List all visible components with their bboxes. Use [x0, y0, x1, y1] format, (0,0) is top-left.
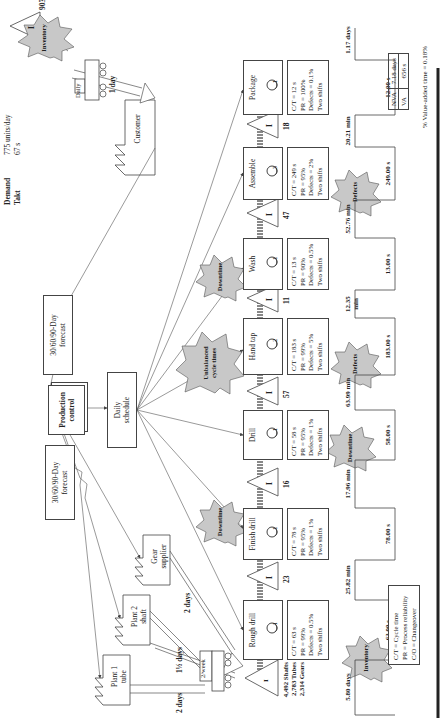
inventory-symbol: I: [265, 213, 274, 216]
customer-truck-frequency: Daily: [73, 84, 82, 98]
wait-time: 20.21 min: [344, 115, 352, 147]
wip-qty: 57: [282, 391, 291, 399]
nva-value: 7.18 days: [389, 54, 399, 89]
kaizen-defects-assemble: Defects: [351, 172, 358, 212]
process-assemble: Assemble 3: [243, 147, 283, 200]
supplier-plant2: Plant 2 shaft: [130, 595, 148, 638]
wip-qty: 16: [282, 481, 291, 489]
inventory-symbol: I: [265, 576, 274, 579]
kaizen-downtime-finish-drill: Downtime: [216, 502, 223, 542]
supplier-plant1: Plant 1 tube: [110, 655, 128, 698]
wip-qty: 23: [282, 576, 291, 584]
gear-lead-time: 2 days: [183, 593, 192, 613]
process-time: 249.00 s: [384, 147, 392, 200]
wip-qty: 18: [282, 123, 291, 131]
wait-time: 5.80 days: [344, 660, 352, 714]
plant2-lead-time: 1½ days: [175, 647, 184, 673]
process-rough-drill: Rough drill 1: [243, 600, 283, 660]
wait-time: 63.99 min: [344, 375, 352, 410]
va-value: 656 s: [399, 54, 409, 89]
nva-label: NVA: [389, 89, 399, 110]
va-label: VA: [399, 89, 409, 110]
data-box-package: C/T = 12 sPR = 100%Defects = 0.1%Two shi…: [287, 60, 329, 115]
customer-truck-lead: 1 day: [108, 76, 117, 93]
inventory-symbol: I: [262, 679, 271, 682]
demand-value: 775 units/day: [3, 75, 12, 155]
kaizen-inventory-finished: Inventory: [40, 18, 47, 58]
daily-schedule: Daily schedule: [107, 372, 137, 448]
value-added-percent: % Value-added time = 0.18%: [421, 46, 429, 128]
kaizen-defects-hand-tap: Defects: [351, 344, 358, 384]
wait-time: 25.82 min: [344, 560, 352, 600]
supplier-gear: Gear supplier: [150, 535, 168, 578]
inventory-symbol: I: [27, 26, 36, 29]
inventory-symbol: I: [265, 391, 274, 394]
legend: C/T = Cycle time PR = Process reliabilit…: [388, 585, 420, 665]
wip-qty: 47: [282, 212, 291, 220]
raw-inventory-counts: 4,492 Shafts 2,783 Tubes 2,314 Gears: [282, 662, 306, 718]
process-time: 78.00 s: [384, 508, 392, 560]
process-hand-tap: Hand tap 2: [243, 318, 283, 375]
nva-va-summary: NVA 7.18 days VA 656 s: [388, 53, 409, 110]
forecast-to-suppliers: 30/60/90-Day forecast: [45, 445, 75, 520]
wait-time: 12.35 min: [344, 290, 360, 318]
supplier-truck-frequency: 2/week: [198, 659, 207, 678]
production-control: Production control: [48, 385, 85, 435]
plant1-lead-time: 2 days: [175, 693, 184, 713]
wait-time: 17.96 min: [344, 460, 352, 508]
process-time: 13.00 s: [384, 238, 392, 290]
kaizen-downtime-wash: Downtime: [216, 257, 223, 297]
wip-qty: 903: [38, 0, 47, 10]
customer-label: Customer: [133, 100, 142, 158]
inventory-symbol: I: [265, 298, 274, 301]
process-drill: Drill 1: [243, 410, 283, 460]
data-box-assemble: C/T = 249 sPR = 95%Defects = 2%Two shift…: [287, 147, 329, 200]
data-box-drill: C/T = 58 sPR = 95%Defects = 1%Two shifts: [287, 410, 329, 460]
wait-time: 52.76 min: [344, 200, 352, 238]
takt-value: 67 s: [13, 75, 22, 155]
value-stream-map: Demand 775 units/day Takt 67 s Plant 1 t…: [0, 0, 445, 718]
data-box-finish-drill: C/T = 78 sPR = 95%Defects = 1%Two shifts: [287, 508, 329, 560]
inventory-symbol: I: [265, 124, 274, 127]
forecast-from-customer: 30/60/90-Day forecast: [43, 295, 73, 375]
data-box-wash: C/T = 13 sPR = 90%Defects = 0.5%Two shif…: [287, 238, 329, 290]
wip-qty: 11: [282, 297, 291, 304]
process-wash: Wash 1: [243, 238, 283, 290]
process-time: 183.00 s: [384, 318, 392, 375]
kaizen-inventory-raw: Inventory: [362, 638, 369, 678]
data-box-rough-drill: C/T = 63 sPR = 99%Defects = 0.5%Two shif…: [287, 600, 329, 660]
process-finish-drill: Finish drill 1: [243, 508, 283, 560]
inventory-symbol: I: [265, 482, 274, 485]
kaizen-unbalanced-cycle-times: Unbalanced cycle times: [202, 338, 218, 388]
wait-time: 1.17 days: [344, 20, 352, 60]
process-time: 58.00 s: [384, 410, 392, 460]
process-package: Package 1: [243, 60, 283, 115]
data-box-hand-tap: C/T = 183 sPR = 99%Defects = 5%Two shift…: [287, 318, 329, 375]
